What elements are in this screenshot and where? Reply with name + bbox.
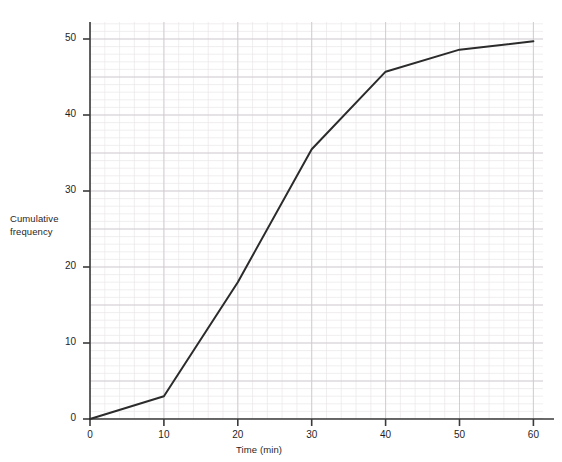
y-tick-label-20: 20: [46, 260, 76, 271]
y-tick-label-50: 50: [46, 32, 76, 43]
y-tick-label-0: 0: [46, 412, 76, 423]
x-tick-label-20: 20: [223, 429, 253, 440]
x-tick-label-60: 60: [518, 429, 548, 440]
x-tick-label-10: 10: [149, 429, 179, 440]
x-axis-label: Time (min): [236, 443, 282, 456]
y-axis-label-line2: frequency: [10, 225, 82, 238]
chart-canvas: [0, 0, 562, 462]
y-axis-label: Cumulative frequency: [10, 212, 82, 238]
x-tick-label-50: 50: [445, 429, 475, 440]
y-tick-label-10: 10: [46, 336, 76, 347]
y-axis-label-line1: Cumulative: [10, 212, 82, 225]
y-tick-label-30: 30: [46, 184, 76, 195]
x-tick-label-0: 0: [75, 429, 105, 440]
cumulative-frequency-chart: · · · · · · · · · · Cumulative frequency…: [0, 0, 562, 462]
y-tick-label-40: 40: [46, 108, 76, 119]
x-tick-label-40: 40: [371, 429, 401, 440]
x-tick-label-30: 30: [297, 429, 327, 440]
